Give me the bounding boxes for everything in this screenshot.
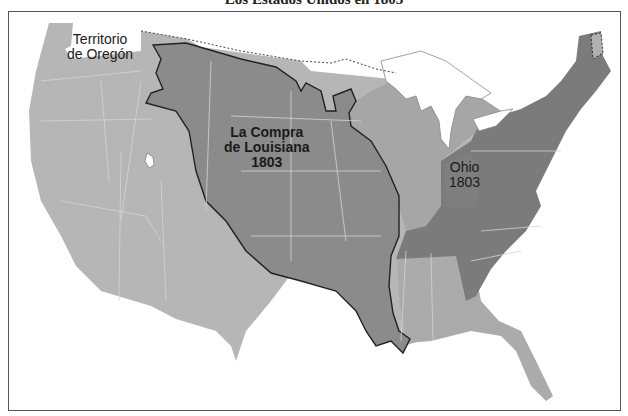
label-oregon-territory: Territorio de Oregón <box>67 32 133 62</box>
map-title: Los Estados Unidos en 1803 <box>0 0 628 8</box>
map-frame: Territorio de Oregón La Compra de Louisi… <box>8 11 621 411</box>
label-ohio: Ohio 1803 <box>449 160 480 190</box>
label-louisiana-purchase: La Compra de Louisiana 1803 <box>224 125 310 170</box>
us-map-1803 <box>9 12 621 411</box>
